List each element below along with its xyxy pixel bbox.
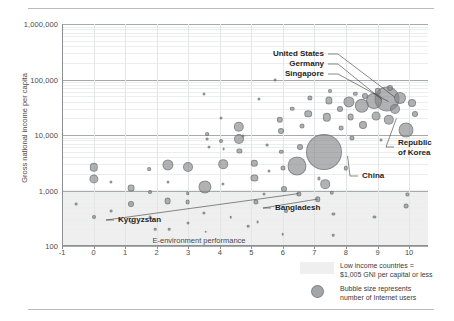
data-bubble — [128, 201, 134, 207]
minor-gridline — [62, 140, 428, 141]
data-bubble — [267, 170, 270, 173]
data-bubble — [366, 93, 382, 109]
x-axis-tick-label: 6 — [281, 248, 285, 257]
data-bubble — [404, 204, 409, 209]
vertical-gridline — [251, 24, 252, 246]
minor-gridline — [62, 193, 428, 194]
minor-gridline — [62, 33, 428, 34]
bottom-divider-rule — [28, 309, 434, 310]
data-bubble — [128, 185, 135, 192]
minor-gridline — [62, 164, 428, 165]
data-bubble — [266, 144, 269, 147]
data-bubble — [337, 106, 343, 112]
data-bubble — [220, 117, 223, 120]
data-bubble — [148, 190, 152, 194]
annotation-line: Republic — [398, 138, 432, 148]
legend-bubble-line2: number of Internet users — [340, 294, 416, 303]
minor-gridline — [62, 220, 428, 221]
x-axis-tick-label: 9 — [375, 248, 379, 257]
legend-band-swatch — [300, 262, 334, 274]
minor-gridline — [62, 144, 428, 145]
x-axis-title: E-environment performance — [62, 236, 428, 245]
minor-gridline — [62, 203, 428, 204]
minor-gridline — [62, 199, 428, 200]
minor-gridline — [62, 213, 428, 214]
y-axis-tick-label: 1,000 — [39, 186, 58, 195]
x-axis-tick-label: 8 — [344, 248, 348, 257]
minor-gridline — [62, 27, 428, 28]
data-bubble — [408, 99, 416, 107]
minor-gridline — [62, 36, 428, 37]
data-bubble — [166, 181, 169, 184]
data-bubble — [362, 93, 368, 99]
y-axis-tick-label: 100,000 — [30, 75, 58, 84]
vertical-gridline — [220, 24, 221, 246]
annotation-singapore: Singapore — [285, 69, 324, 79]
data-bubble — [207, 146, 210, 149]
vertical-gridline — [378, 24, 379, 246]
data-bubble — [218, 159, 228, 169]
vertical-gridline — [94, 24, 95, 246]
data-bubble — [183, 162, 193, 172]
annotation-republic-of-korea: Republicof Korea — [398, 138, 432, 157]
annotation-line: of Korea — [398, 147, 432, 157]
x-axis-tick-mark — [314, 245, 315, 249]
data-bubble — [328, 89, 332, 93]
x-axis-tick-label: 4 — [218, 248, 222, 257]
x-axis-tick-mark — [251, 245, 252, 249]
minor-gridline — [62, 152, 428, 153]
data-bubble — [282, 233, 285, 236]
minor-gridline — [62, 207, 428, 208]
vertical-gridline — [346, 24, 347, 246]
data-bubble — [256, 221, 259, 224]
annotation-germany: Germany — [289, 59, 324, 69]
data-bubble — [281, 186, 287, 192]
vertical-gridline — [157, 24, 158, 246]
y-axis-title: Gross national income per capita — [20, 73, 29, 183]
minor-gridline — [62, 82, 428, 83]
data-bubble — [186, 191, 190, 195]
x-axis-tick-mark — [409, 245, 410, 249]
data-bubble — [290, 106, 295, 111]
data-bubble — [230, 216, 233, 219]
x-axis-tick-label: 1 — [123, 248, 127, 257]
data-bubble — [185, 200, 190, 205]
data-bubble — [164, 198, 171, 205]
data-bubble — [205, 132, 209, 136]
data-bubble — [394, 92, 406, 104]
major-gridline — [62, 246, 428, 247]
minor-gridline — [62, 85, 428, 86]
legend-band-text: Low income countries = $1,005 GNI per ca… — [340, 262, 433, 279]
legend-bubble-swatch-wrap — [300, 285, 334, 298]
data-bubble — [202, 92, 205, 95]
x-axis-tick-label: 7 — [312, 248, 316, 257]
top-divider-rule — [28, 8, 434, 9]
data-bubble — [247, 225, 250, 228]
major-gridline — [62, 80, 428, 81]
data-bubble — [299, 124, 304, 129]
legend-bubble-text: Bubble size represents number of Interne… — [340, 285, 416, 302]
x-axis-tick-mark — [378, 245, 379, 249]
x-axis-tick-label: 3 — [186, 248, 190, 257]
data-bubble — [219, 139, 223, 143]
legend-bubble-line1: Bubble size represents — [340, 285, 416, 294]
x-axis-title-text: E-environment performance — [153, 236, 246, 245]
data-bubble — [315, 196, 321, 202]
annotation-china: China — [362, 171, 384, 181]
legend-band-line1: Low income countries = — [340, 262, 433, 271]
legend-row-low-income: Low income countries = $1,005 GNI per ca… — [300, 262, 450, 279]
data-bubble — [304, 110, 312, 118]
data-bubble — [154, 228, 157, 231]
x-axis-tick-mark — [125, 245, 126, 249]
plot-area: 1001,00010,000100,0001,000,000 -10123456… — [62, 24, 428, 246]
minor-gridline — [62, 138, 428, 139]
data-bubble — [75, 203, 78, 206]
data-bubble — [168, 228, 171, 231]
annotation-bangladesh: Bangladesh — [275, 203, 320, 213]
data-bubble — [206, 138, 209, 141]
x-axis-tick-mark — [157, 245, 158, 249]
minor-gridline — [62, 157, 428, 158]
data-bubble — [222, 148, 225, 151]
major-gridline — [62, 191, 428, 192]
data-bubble — [339, 125, 344, 130]
